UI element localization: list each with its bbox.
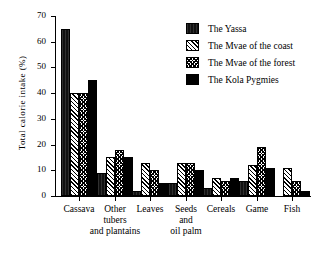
y-axis-tick-label: 70 xyxy=(0,10,46,20)
bar xyxy=(239,181,248,196)
legend-swatch xyxy=(186,40,199,51)
bar xyxy=(61,29,70,196)
bar xyxy=(177,163,186,196)
y-axis-tick xyxy=(51,196,56,197)
x-axis-tick xyxy=(79,196,80,201)
x-axis-tick xyxy=(150,196,151,201)
legend-swatch xyxy=(186,74,199,85)
bar xyxy=(301,191,310,196)
bar xyxy=(221,181,230,196)
y-axis-tick-label: 50 xyxy=(0,61,46,71)
y-axis-tick-label: 30 xyxy=(0,113,46,123)
bar xyxy=(79,93,88,196)
bar xyxy=(248,165,257,196)
x-axis-tick xyxy=(186,196,187,201)
legend-label: The Mvae of the coast xyxy=(208,41,293,51)
bar xyxy=(88,80,97,196)
chart-legend: The YassaThe Mvae of the coastThe Mvae o… xyxy=(186,20,295,88)
y-axis-tick-label: 20 xyxy=(0,139,46,149)
y-axis-title: Total calorie intake (%) xyxy=(17,28,27,178)
y-axis-tick-label: 40 xyxy=(0,87,46,97)
bar xyxy=(141,163,150,196)
bar xyxy=(97,173,106,196)
y-axis-tick-label: 10 xyxy=(0,164,46,174)
x-axis-tick xyxy=(115,196,116,201)
bar xyxy=(150,170,159,196)
bar xyxy=(230,178,239,196)
legend-swatch xyxy=(186,57,199,68)
bar xyxy=(132,191,141,196)
bar xyxy=(70,93,79,196)
bar xyxy=(212,178,221,196)
bar xyxy=(266,168,275,196)
legend-label: The Kola Pygmies xyxy=(208,75,279,85)
bar xyxy=(257,147,266,196)
x-axis-tick xyxy=(221,196,222,201)
legend-item: The Yassa xyxy=(186,20,295,37)
bar xyxy=(106,157,115,196)
y-axis-tick-label: 0 xyxy=(0,190,46,200)
legend-swatch xyxy=(186,23,199,34)
bar xyxy=(283,168,292,196)
bar-chart-figure: Total calorie intake (%) 010203040506070… xyxy=(0,0,321,263)
legend-label: The Mvae of the forest xyxy=(208,58,295,68)
legend-item: The Kola Pygmies xyxy=(186,71,295,88)
legend-item: The Mvae of the coast xyxy=(186,37,295,54)
legend-label: The Yassa xyxy=(208,24,247,34)
x-axis-tick xyxy=(257,196,258,201)
bar xyxy=(292,181,301,196)
bar xyxy=(203,188,212,196)
bar xyxy=(168,183,177,196)
y-axis-tick-label: 60 xyxy=(0,36,46,46)
x-axis-line xyxy=(55,196,311,197)
x-axis-tick xyxy=(292,196,293,201)
x-axis-category-label: Fish xyxy=(252,204,321,215)
legend-item: The Mvae of the forest xyxy=(186,54,295,71)
bar xyxy=(186,163,195,196)
bar xyxy=(159,183,168,196)
bar xyxy=(115,150,124,196)
